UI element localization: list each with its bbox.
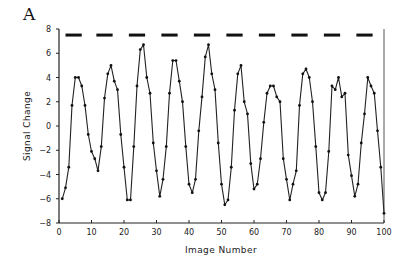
- data-point: [188, 183, 191, 186]
- data-point: [155, 169, 158, 172]
- x-axis-title: Image Number: [185, 245, 257, 255]
- y-tick-label: 8: [46, 25, 51, 34]
- data-point: [129, 199, 132, 202]
- data-point: [331, 85, 334, 88]
- y-tick-label: −6: [39, 195, 51, 204]
- data-point: [93, 157, 96, 160]
- data-point: [311, 100, 314, 103]
- data-point: [67, 166, 70, 169]
- data-point: [136, 85, 139, 88]
- x-tick-label: 0: [56, 228, 61, 237]
- data-point: [383, 212, 386, 215]
- data-point: [61, 197, 64, 200]
- data-point: [321, 199, 324, 202]
- axes: [59, 29, 384, 223]
- y-axis-title: Signal Change: [22, 91, 32, 161]
- data-point: [132, 145, 135, 148]
- data-point: [142, 43, 145, 46]
- data-point: [162, 178, 165, 181]
- data-point: [152, 142, 155, 145]
- data-point: [181, 100, 184, 103]
- data-point: [201, 96, 204, 99]
- y-tick-label: −8: [39, 219, 51, 228]
- data-point: [191, 191, 194, 194]
- data-point: [149, 92, 152, 95]
- data-point: [220, 183, 223, 186]
- x-tick-label: 90: [346, 228, 356, 237]
- data-point: [353, 195, 356, 198]
- data-point: [340, 96, 343, 99]
- data-point: [275, 96, 278, 99]
- data-point: [236, 72, 239, 75]
- data-point: [113, 80, 116, 83]
- data-point: [168, 92, 171, 95]
- data-point: [314, 145, 317, 148]
- data-point: [337, 76, 340, 79]
- data-point: [100, 145, 103, 148]
- data-point: [145, 76, 148, 79]
- data-point: [184, 145, 187, 148]
- data-point: [171, 59, 174, 62]
- data-point: [279, 100, 282, 103]
- line-chart: −8−6−4−202468 0102030405060708090100 Ima…: [0, 0, 410, 265]
- data-point: [376, 129, 379, 132]
- data-point: [243, 100, 246, 103]
- data-point: [269, 85, 272, 88]
- data-point: [292, 183, 295, 186]
- data-point: [204, 55, 207, 58]
- y-tick-label: 6: [46, 49, 51, 58]
- data-point: [347, 154, 350, 157]
- data-point: [253, 188, 256, 191]
- data-point: [318, 191, 321, 194]
- x-tick-label: 70: [281, 228, 291, 237]
- data-point: [259, 157, 262, 160]
- series-line: [62, 45, 384, 214]
- data-point: [233, 109, 236, 112]
- data-point: [119, 133, 122, 136]
- data-point: [350, 174, 353, 177]
- x-tick-label: 10: [86, 228, 96, 237]
- x-tick-label: 30: [151, 228, 161, 237]
- data-point: [197, 129, 200, 132]
- data-point: [126, 199, 129, 202]
- data-point: [217, 142, 220, 145]
- data-point: [324, 191, 327, 194]
- data-point: [223, 203, 226, 206]
- data-point: [97, 169, 100, 172]
- data-point: [194, 178, 197, 181]
- data-point: [285, 178, 288, 181]
- data-point: [214, 88, 217, 91]
- data-point: [175, 59, 178, 62]
- data-point: [227, 199, 230, 202]
- data-point: [158, 195, 161, 198]
- y-tick-label: 2: [46, 98, 51, 107]
- y-tick-label: 0: [46, 122, 51, 131]
- data-point: [77, 76, 80, 79]
- data-point: [178, 80, 181, 83]
- data-point: [262, 121, 265, 124]
- data-point: [298, 104, 301, 107]
- data-point: [301, 72, 304, 75]
- data-point: [139, 48, 142, 51]
- data-point: [87, 133, 90, 136]
- data-point: [363, 112, 366, 115]
- data-point: [210, 72, 213, 75]
- data-point: [103, 97, 106, 100]
- x-tick-label: 60: [249, 228, 259, 237]
- data-point: [344, 92, 347, 95]
- data-point: [282, 157, 285, 160]
- data-point: [256, 183, 259, 186]
- data-point: [165, 145, 168, 148]
- data-point: [240, 64, 243, 67]
- data-point: [357, 183, 360, 186]
- data-point: [360, 142, 363, 145]
- data-point: [207, 43, 210, 46]
- x-tick-label: 100: [376, 228, 391, 237]
- y-tick-label: −4: [39, 171, 51, 180]
- data-point: [308, 76, 311, 79]
- data-point: [90, 150, 93, 153]
- x-tick-label: 20: [119, 228, 129, 237]
- x-tick-label: 40: [184, 228, 194, 237]
- data-point: [366, 76, 369, 79]
- data-point: [295, 169, 298, 172]
